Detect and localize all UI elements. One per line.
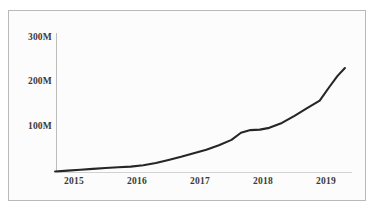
- y-tick-label-100m: 100M: [12, 121, 52, 131]
- y-tick-label-200m: 200M: [12, 76, 52, 86]
- x-tick-label-2019: 2019: [306, 176, 346, 186]
- chart-screenshot: 300M 200M 100M 2015 2016 2017 2018 2019: [0, 0, 380, 219]
- x-tick-label-2016: 2016: [117, 176, 157, 186]
- x-tick-label-2017: 2017: [180, 176, 220, 186]
- y-tick-label-300m: 300M: [12, 32, 52, 42]
- x-tick-label-2018: 2018: [243, 176, 283, 186]
- x-tick-label-2015: 2015: [54, 176, 94, 186]
- data-series-line: [55, 68, 345, 171]
- line-chart-plot: [0, 0, 380, 219]
